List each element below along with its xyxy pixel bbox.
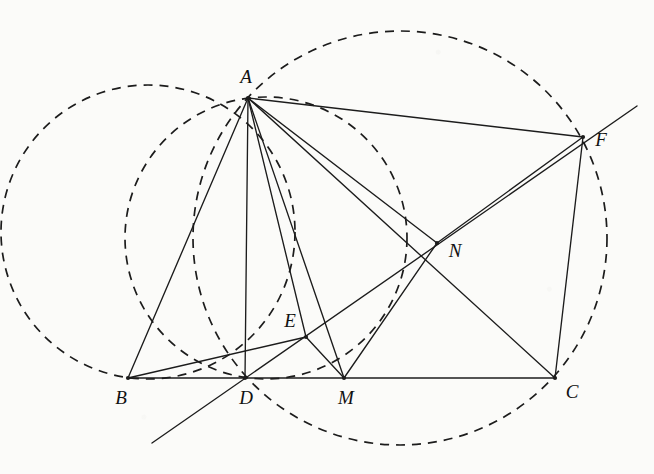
point-label-B: B xyxy=(115,387,127,408)
vertex-dot-C xyxy=(553,376,557,380)
line-through-D-E-N xyxy=(152,106,637,443)
circumcircle-ADC-circle xyxy=(193,31,607,445)
point-label-M: M xyxy=(337,387,355,408)
line-AN-to-C xyxy=(248,98,437,243)
vertex-dot-D xyxy=(243,376,247,380)
segment-NF xyxy=(437,137,583,243)
solid-segments-group xyxy=(128,98,637,443)
side-AB xyxy=(128,98,248,378)
segment-EM xyxy=(306,337,344,378)
segment-MN xyxy=(344,243,437,378)
point-label-N: N xyxy=(448,240,463,261)
geometry-figure: ABCDEMNF xyxy=(0,0,654,474)
geometry-canvas: ABCDEMNF xyxy=(0,0,654,474)
circumcircle-ADE-circle xyxy=(125,97,407,379)
cevian-AD xyxy=(245,98,248,378)
point-label-E: E xyxy=(283,310,296,331)
vertex-dot-E xyxy=(304,335,308,339)
vertex-dot-A xyxy=(246,96,250,100)
side-AC-via-F xyxy=(248,98,583,137)
vertex-dots-group xyxy=(126,96,585,380)
point-label-D: D xyxy=(238,387,253,408)
vertex-dot-N xyxy=(435,241,439,245)
point-label-F: F xyxy=(594,129,607,150)
segment-FC xyxy=(555,137,583,378)
circumcircle-ABD-circle xyxy=(1,85,295,379)
vertex-dot-B xyxy=(126,376,130,380)
vertex-dot-F xyxy=(581,135,585,139)
point-label-A: A xyxy=(238,66,252,87)
vertex-dot-M xyxy=(342,376,346,380)
point-label-C: C xyxy=(566,381,579,402)
dashed-circles-group xyxy=(1,31,607,445)
segment-BE xyxy=(128,337,306,378)
cevian-AM xyxy=(248,98,344,378)
